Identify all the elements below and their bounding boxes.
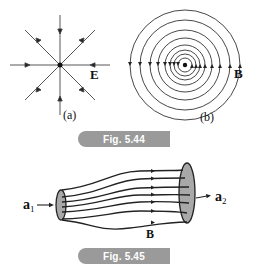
part-a-label: (a) (63, 109, 76, 121)
area-2-subscript: 2 (222, 196, 227, 206)
area-1-subscript: 1 (30, 204, 35, 214)
area-2-letter: a (215, 189, 222, 204)
area-1-letter: a (23, 197, 30, 212)
circular-field-arrows (128, 62, 242, 68)
electric-field-label: E (90, 68, 99, 81)
flux-tube (37, 163, 211, 229)
part-b-label: (b) (200, 111, 214, 123)
radial-field-lines (10, 15, 110, 115)
figure-caption-5-45: Fig. 5.45 (78, 248, 170, 264)
area-2-label: a2 (215, 190, 227, 206)
magnetic-field-label-b: B (234, 67, 243, 80)
magnetic-field-label-tube: B (146, 228, 154, 240)
figure-caption-5-44: Fig. 5.44 (78, 131, 170, 147)
area-1-label: a1 (23, 198, 35, 214)
